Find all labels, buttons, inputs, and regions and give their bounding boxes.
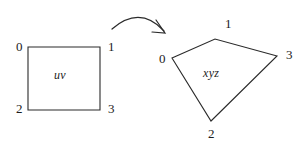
source-vertex-label-3: 3 [108, 102, 115, 115]
target-vertex-label-1: 1 [225, 17, 232, 30]
target-quadrilateral-outline [172, 39, 277, 121]
target-shape-name: xyz [203, 67, 219, 79]
figure-drawing [0, 0, 306, 146]
target-vertex-label-0: 0 [159, 52, 166, 65]
source-vertex-label-0: 0 [16, 40, 23, 53]
source-vertex-label-1: 1 [108, 40, 115, 53]
target-vertex-label-2: 2 [208, 127, 215, 140]
target-vertex-label-3: 3 [286, 48, 293, 61]
source-vertex-label-2: 2 [16, 102, 23, 115]
figure-container: 0 1 2 3 uv 0 1 2 3 xyz [0, 0, 306, 146]
source-shape-name: uv [54, 69, 66, 81]
